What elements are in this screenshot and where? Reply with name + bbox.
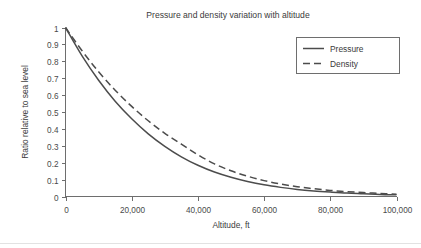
- y-axis-title: Ratio relative to sea level: [20, 65, 30, 159]
- x-tick-label: 0: [64, 206, 69, 215]
- y-tick-label: 0.1: [47, 177, 59, 186]
- y-tick-label: 0.4: [47, 126, 59, 135]
- y-tick-label: 0.6: [47, 92, 59, 101]
- chart-title: Pressure and density variation with alti…: [146, 10, 310, 20]
- y-tick-label: 0.9: [47, 41, 59, 50]
- x-tick-label: 80,000: [318, 206, 343, 215]
- pressure-density-line-chart: Pressure and density variation with alti…: [0, 0, 421, 248]
- chart-figure: Pressure and density variation with alti…: [0, 0, 421, 248]
- chart-legend: Pressure Density: [297, 38, 400, 74]
- y-tick-label: 0.2: [47, 160, 59, 169]
- y-tick-label: 0.8: [47, 58, 59, 67]
- y-tick-label: 0.3: [47, 143, 59, 152]
- x-axis-title: Altitude, ft: [212, 220, 250, 230]
- legend-label-density: Density: [330, 59, 359, 69]
- y-tick-label: 0.5: [47, 109, 59, 118]
- x-tick-label: 40,000: [186, 206, 211, 215]
- x-tick-label: 60,000: [252, 206, 277, 215]
- x-tick-label: 100,000: [383, 206, 413, 215]
- y-tick-label: 0: [54, 194, 59, 203]
- x-tick-label: 20,000: [120, 206, 145, 215]
- legend-label-pressure: Pressure: [330, 44, 364, 54]
- y-tick-label: 0.7: [47, 75, 59, 84]
- y-tick-label: 1: [54, 25, 59, 34]
